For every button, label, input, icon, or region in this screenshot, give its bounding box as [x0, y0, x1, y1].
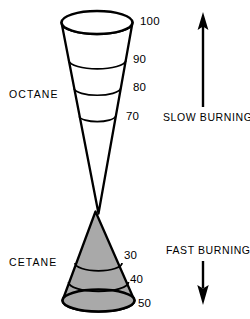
cetane-scale-label-40: 40	[130, 274, 143, 286]
octane-cone	[62, 11, 133, 214]
cetane-title-label: CETANE	[9, 257, 57, 268]
fast-burning-arrow	[197, 261, 208, 305]
octane-cone-body	[62, 23, 133, 214]
cetane-scale-label-50: 50	[138, 298, 151, 310]
slow-burning-arrow	[198, 12, 209, 107]
octane-scale-label-70: 70	[126, 111, 139, 123]
cone-diagram-graphic	[0, 0, 250, 319]
octane-title-label: OCTANE	[9, 89, 59, 100]
octane-scale-label-90: 90	[133, 54, 146, 66]
octane-scale-label-100: 100	[140, 16, 160, 28]
cetane-scale-label-30: 30	[124, 250, 137, 262]
fast-burning-label: FAST BURNING	[166, 245, 250, 256]
cetane-cone	[63, 212, 135, 312]
octane-top-rim	[62, 11, 133, 34]
octane-scale-label-80: 80	[133, 82, 146, 94]
octane-cetane-diagram: 100 90 80 70 OCTANE SLOW BURNING 30 40 5…	[0, 0, 250, 319]
cetane-base-rim	[63, 290, 135, 312]
slow-burning-label: SLOW BURNING	[163, 112, 250, 123]
